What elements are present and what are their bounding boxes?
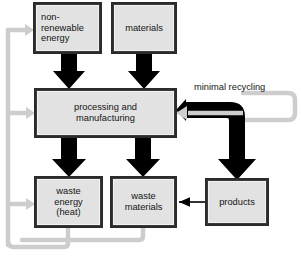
node-label: waste materials bbox=[113, 191, 174, 212]
node-waste-materials[interactable]: waste materials bbox=[112, 178, 175, 226]
node-products[interactable]: products bbox=[207, 180, 267, 224]
flow-diagram: non- renewable energy materials processi… bbox=[0, 0, 301, 257]
node-label: non- renewable energy bbox=[36, 12, 99, 44]
gray-arrowheads bbox=[25, 24, 35, 210]
node-label: waste energy (heat) bbox=[37, 186, 100, 218]
arrow-processing-to-waste-materials bbox=[126, 136, 160, 177]
node-label: products bbox=[208, 197, 266, 208]
gray-arrowhead-waste-energy bbox=[26, 198, 35, 210]
gray-arrowhead-processing-left bbox=[26, 107, 35, 119]
node-processing-and-manufacturing[interactable]: processing and manufacturing bbox=[36, 90, 175, 136]
arrow-materials-to-processing bbox=[128, 52, 160, 89]
node-label: materials bbox=[114, 23, 174, 34]
arrow-energy-to-processing bbox=[53, 52, 85, 89]
edge-label-minimal-recycling: minimal recycling bbox=[194, 82, 265, 92]
gray-return-waste-materials bbox=[22, 226, 143, 240]
arrow-processing-to-waste-energy bbox=[52, 136, 86, 177]
node-waste-energy-heat[interactable]: waste energy (heat) bbox=[36, 178, 101, 226]
node-label: processing and manufacturing bbox=[37, 102, 174, 123]
node-materials[interactable]: materials bbox=[113, 4, 175, 52]
gray-arrowhead-nonrenewable bbox=[25, 24, 34, 36]
gray-return-waste-energy bbox=[8, 226, 68, 247]
node-non-renewable-energy[interactable]: non- renewable energy bbox=[35, 4, 100, 52]
